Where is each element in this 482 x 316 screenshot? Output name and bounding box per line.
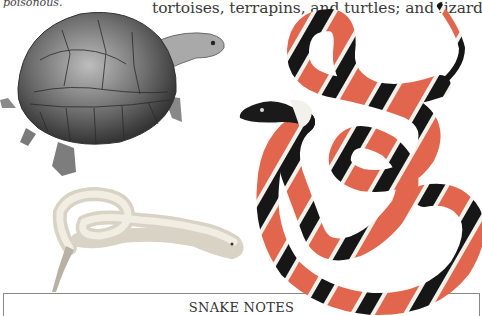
milk-snake-illustration	[0, 0, 482, 316]
